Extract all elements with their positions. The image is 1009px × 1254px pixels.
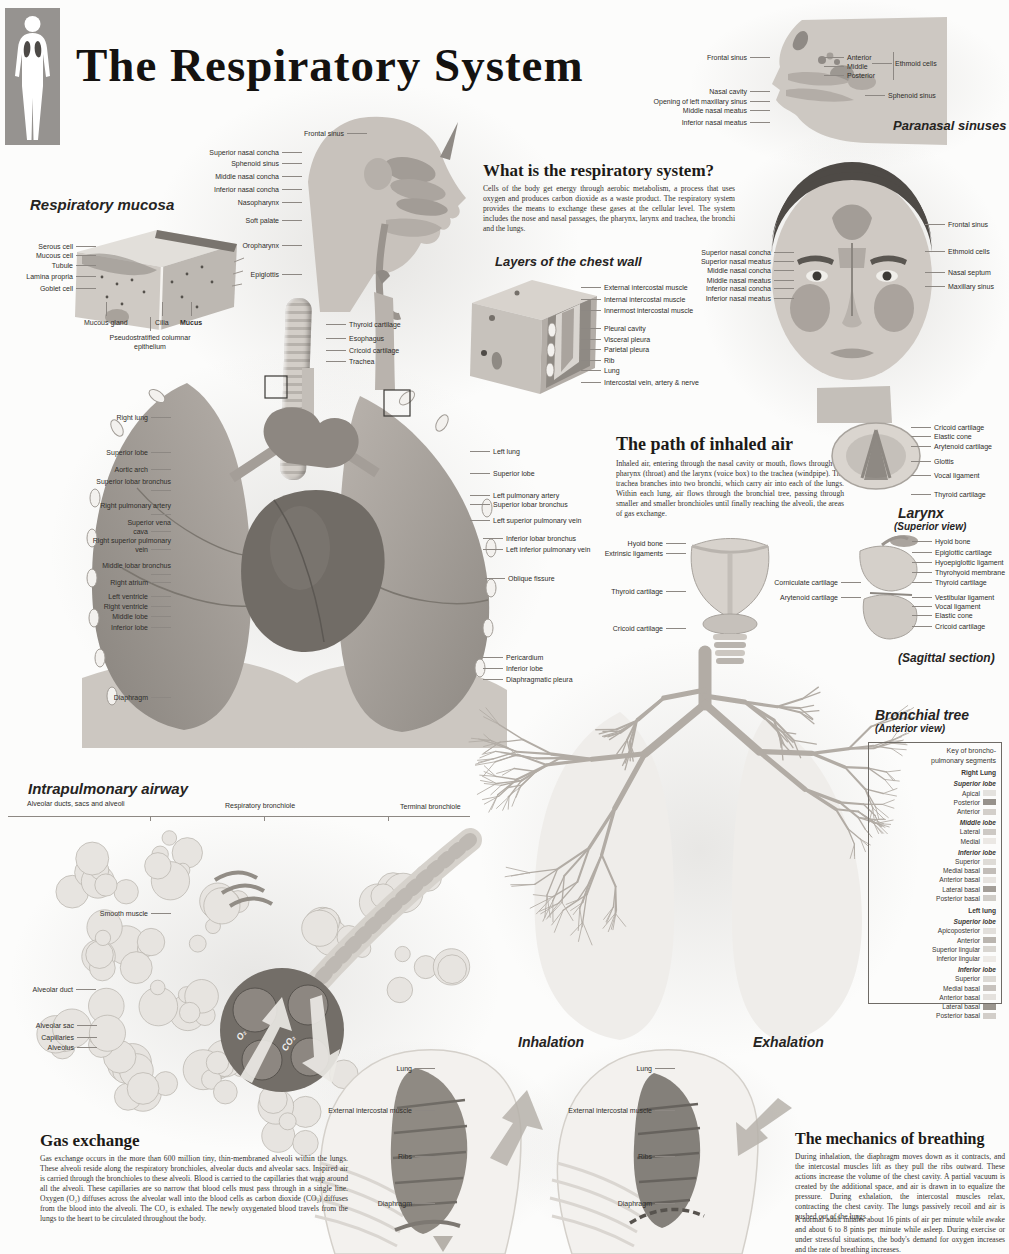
anatomy-label: Superior lobar bronchus [470, 500, 568, 509]
scale-tick [388, 816, 389, 821]
key-row: Posterior basal [873, 894, 996, 903]
key-row-label: Medial basal [943, 866, 980, 875]
anatomy-label: Frontal sinus [304, 129, 367, 138]
key-row: Lateral [873, 827, 996, 836]
whatis-heading: What is the respiratory system? [483, 161, 714, 181]
anatomy-label: Ethmoid cells [925, 247, 990, 256]
anatomy-label: Middle nasal concha [707, 266, 794, 275]
key-row-label: Inferior lingular [936, 954, 980, 963]
anatomy-label: Lung [396, 1064, 435, 1073]
anatomy-label: Arytenoid cartilage [911, 442, 992, 451]
key-row-label: Middle lobe [960, 818, 996, 827]
anatomy-label: Hyoid bone [628, 539, 686, 548]
anatomy-label: Anterior [824, 53, 872, 62]
anatomy-label: Intercostal vein, artery & nerve [581, 378, 699, 387]
key-swatch [983, 985, 996, 991]
scale-tick [150, 816, 151, 821]
anatomy-label: Middle lobe [112, 612, 171, 621]
anatomy-label: Right ventricle [104, 602, 171, 611]
anatomy-label: Vocal ligament [911, 471, 980, 480]
key-row: Anterior basal [873, 875, 996, 884]
key-row-label: Posterior basal [936, 894, 980, 903]
anatomy-label: Left pulmonary artery [470, 491, 559, 500]
anatomy-label: External intercostal muscle [328, 1106, 435, 1115]
anatomy-label: Right atrium [110, 578, 171, 587]
key-row-label: Key of broncho- [947, 746, 996, 756]
anatomy-label: Visceral pleura [581, 335, 650, 344]
key-row-label: Apicoposterior [938, 926, 980, 935]
key-swatch [983, 956, 996, 962]
scale-line [8, 816, 470, 817]
key-swatch [983, 895, 996, 901]
key-row-label: Anterior [957, 807, 980, 816]
anatomy-label: Inferior nasal concha [214, 185, 302, 194]
anatomy-label: Cricoid cartilage [912, 622, 985, 631]
anatomy-label: Aortic arch [115, 465, 171, 474]
key-row: Anterior [873, 936, 996, 945]
anatomy-label: Sphenoid sinus [865, 91, 936, 100]
anatomy-label: Frontal sinus [707, 53, 770, 62]
anatomy-label: Thyroid cartilage [912, 578, 987, 587]
poster-root: The Respiratory System Frontal sinus Nas… [0, 0, 1009, 1254]
anatomy-label: Inferior nasal meatus [706, 294, 794, 303]
anatomy-label: Nasal septum [925, 268, 991, 277]
anatomy-label: Left ventricle [108, 592, 171, 601]
anatomy-label: Epiglottic cartilage [912, 548, 992, 557]
key-row: Apical [873, 789, 996, 798]
anatomy-label: Oblique fissure [485, 574, 555, 583]
anatomy-label: Nasopharynx [238, 198, 302, 207]
key-swatch [983, 946, 996, 952]
key-row-label: Superior lobe [954, 779, 997, 788]
key-row-label: Superior lingular [932, 945, 980, 954]
anatomy-label: Right pulmonary artery [93, 501, 171, 519]
anatomy-label: Serous cell [38, 242, 96, 251]
anatomy-label: Elastic cone [911, 432, 972, 441]
key-row: Superior lingular [873, 945, 996, 954]
anatomy-label: Thyroid cartilage [611, 587, 686, 596]
key-row: pulmonary segments [873, 756, 996, 766]
anatomy-label: External intercostal muscle [581, 283, 688, 292]
anatomy-label: Vestibular ligament [912, 593, 994, 602]
anatomy-label: Alveolar duct [33, 985, 96, 994]
key-swatch [983, 937, 996, 943]
anatomy-label: Superior lobe [106, 448, 171, 457]
anatomy-label: Superior nasal meatus [701, 257, 794, 266]
anatomy-label: Superior vena cava [111, 518, 171, 536]
anatomy-label: Soft palate [246, 216, 302, 225]
anatomy-label: Capillaries [41, 1033, 97, 1042]
whatis-body: Cells of the body get energy through aer… [483, 184, 735, 234]
key-row-label: Superior [955, 974, 980, 983]
key-swatch [983, 799, 996, 805]
key-row: Medial basal [873, 866, 996, 875]
anatomy-label: Middle nasal concha [215, 172, 302, 181]
key-row-label: Left lung [968, 906, 996, 915]
anatomy-label: Trachea [326, 357, 374, 366]
chestwall-title: Layers of the chest wall [495, 254, 642, 269]
key-row-label: Posterior basal [936, 1011, 980, 1020]
anatomy-label: Thyrohyoid membrane [912, 568, 1005, 577]
anatomy-label: Mucous cell [36, 251, 96, 260]
key-row-label: Superior [955, 857, 980, 866]
anatomy-label: Superior lobe [470, 469, 535, 478]
key-row: Lateral basal [873, 1002, 996, 1011]
key-row-label: Inferior lobe [958, 848, 996, 857]
key-row: Posterior basal [873, 1011, 996, 1020]
key-swatch [983, 928, 996, 934]
anatomy-label: Left lung [470, 447, 520, 456]
anatomy-label: Middle lobar bronchus [101, 561, 171, 579]
key-row: Left lung [873, 906, 996, 915]
anatomy-label: Alveolar sac [36, 1021, 97, 1030]
anatomy-label: Cricoid cartilage [326, 346, 399, 355]
anatomy-label: Ribs [638, 1152, 675, 1161]
lungs-heart-illustration [62, 368, 522, 748]
anatomy-label: Epiglottis [251, 270, 302, 279]
anatomy-label: Pseudostratified columnar epithelium [100, 317, 200, 351]
anatomy-label: Esophagus [326, 334, 384, 343]
key-row: Inferior lobe [873, 848, 996, 857]
key-row-label: Lateral basal [942, 885, 980, 894]
bronchial-tree-illustration [500, 652, 900, 1052]
key-row-label: Lateral basal [942, 1002, 980, 1011]
key-row-label: pulmonary segments [931, 756, 996, 766]
key-row: Inferior lingular [873, 954, 996, 963]
larynx-title: Larynx [898, 505, 944, 521]
